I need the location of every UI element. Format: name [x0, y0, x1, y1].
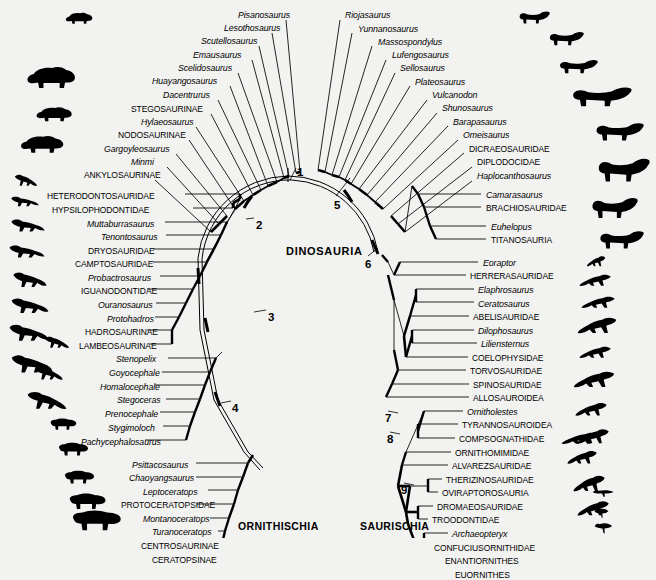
- tip-label: Homalocephale: [100, 382, 160, 392]
- tip-label: Stenopelix: [116, 354, 156, 364]
- silhouette-sauropod-medium: [570, 82, 632, 110]
- tip-label: HYPSILOPHODONTIDAE: [52, 205, 149, 215]
- silhouette-pachycephalosaur-big: [26, 388, 68, 412]
- silhouette-muttaburrasaur: [10, 216, 46, 234]
- clade-label-ornithischia: ORNITHISCHIA: [238, 520, 319, 532]
- tip-label: Turanoceratops: [152, 527, 212, 537]
- silhouette-camptosaur: [10, 294, 50, 316]
- silhouette-prosauropod: [548, 28, 584, 48]
- tip-label: ANKYLOSAURINAE: [84, 170, 161, 180]
- tip-label: SPINOSAURIDAE: [473, 380, 542, 390]
- tip-label: STEGOSAURINAE: [131, 104, 203, 114]
- tip-label: Huayangosaurus: [152, 76, 217, 86]
- tip-label: NODOSAURINAE: [118, 130, 186, 140]
- silhouette-pachycephalosaur-small: [44, 334, 70, 350]
- tip-label: PROTOCERATOPSIDAE: [121, 500, 215, 510]
- silhouette-ankylosaur: [18, 132, 66, 156]
- node-number-6: 6: [365, 258, 371, 270]
- silhouette-pachycephalosaur: [34, 364, 64, 382]
- tip-label: HERRERASAURIDAE: [470, 271, 554, 281]
- tip-label: Dacentrurus: [163, 90, 210, 100]
- tip-label: TYRANNOSAUROIDEA: [462, 420, 552, 430]
- tip-label: ORNITHOMIMIDAE: [455, 448, 529, 458]
- tip-label: Archaeopteryx: [452, 529, 507, 539]
- silhouette-heterodontosaur: [14, 172, 38, 188]
- tip-label: Riojasaurus: [345, 10, 390, 20]
- tip-label: Elaphrosaurus: [478, 285, 533, 295]
- tip-label: Sellosaurus: [400, 63, 445, 73]
- tip-label: Vulcanodon: [432, 90, 477, 100]
- tip-label: Ouranosaurus: [98, 300, 153, 310]
- silhouette-sauropod-large: [596, 152, 650, 186]
- silhouette-eoraptor: [586, 254, 606, 268]
- tip-label: OVIRAPTOROSAURIA: [442, 488, 529, 498]
- tip-label: Plateosaurus: [415, 77, 465, 87]
- tip-label: TROODONTIDAE: [432, 515, 499, 525]
- silhouette-hypsilophodont: [10, 194, 40, 208]
- silhouette-prosauropod-small: [518, 8, 550, 26]
- tip-label: CENTROSAURINAE: [141, 541, 219, 551]
- clade-label-saurischia: SAURISCHIA: [360, 520, 429, 532]
- silhouette-stegosaur-large: [24, 62, 78, 92]
- silhouette-sauropod-small: [558, 56, 598, 76]
- tip-label: Barapasaurus: [453, 117, 507, 127]
- tip-label: DIPLODOCIDAE: [477, 157, 540, 167]
- tip-label: CAMPTOSAURIDAE: [75, 259, 153, 269]
- silhouette-elaphrosaur: [580, 294, 616, 310]
- silhouette-ceratopsian-large: [68, 506, 124, 534]
- tip-label: Liliensternus: [481, 339, 529, 349]
- root-clade-label: DINOSAURIA: [286, 245, 363, 257]
- node-number-3: 3: [268, 311, 274, 323]
- tip-label: Omeisaurus: [463, 130, 509, 140]
- tip-label: TITANOSAURIA: [491, 235, 552, 245]
- node-number-2: 2: [256, 219, 262, 231]
- tip-label: HETERODONTOSAURIDAE: [47, 191, 155, 201]
- tip-label: ALVAREZSAURIDAE: [452, 461, 531, 471]
- tip-label: Scutellosaurus: [201, 36, 257, 46]
- silhouette-montanoceratops: [62, 468, 96, 486]
- tip-label: DROMAEOSAURIDAE: [437, 502, 523, 512]
- silhouette-tenontosaur: [8, 242, 46, 260]
- tip-label: EUORNITHES: [455, 570, 510, 580]
- tip-label: DICRAEOSAURIDAE: [469, 144, 550, 154]
- tip-label: Minmi: [131, 157, 154, 167]
- tip-label: ENANTIORNITHES: [445, 556, 519, 566]
- tip-label: Protohadros: [107, 314, 154, 324]
- node-number-8: 8: [387, 433, 393, 445]
- tip-label: DRYOSAURIDAE: [88, 246, 155, 256]
- tip-label: ALLOSAUROIDEA: [473, 393, 544, 403]
- tip-label: Scelidosaurus: [178, 63, 232, 73]
- tip-label: THERIZINOSAURIDAE: [446, 475, 534, 485]
- tip-label: LAMBEOSAURINAE: [79, 341, 156, 351]
- node-number-5: 5: [334, 199, 340, 211]
- tip-label: COMPSOGNATHIDAE: [459, 434, 544, 444]
- tip-label: Stegoceras: [117, 395, 161, 405]
- tip-label: Camarasaurus: [486, 190, 543, 200]
- tip-label: Massospondylus: [378, 37, 442, 47]
- tip-label: BRACHIOSAURIDAE: [486, 203, 567, 213]
- silhouette-dryosaur: [12, 268, 48, 290]
- silhouette-nodosaur: [34, 104, 74, 124]
- silhouette-enantiornithes: [594, 520, 614, 538]
- tip-label: Gargoyleosaurus: [104, 144, 170, 154]
- silhouette-dilophosaur: [578, 344, 612, 360]
- silhouette-sauropod-diplodocid: [594, 118, 644, 144]
- node-number-7: 7: [385, 412, 391, 424]
- tip-label: Muttaburrasaurus: [87, 219, 154, 229]
- tip-label: TORVOSAURIDAE: [470, 366, 542, 376]
- tip-label: Goyocephale: [109, 368, 160, 378]
- tip-label: Euhelopus: [491, 222, 532, 232]
- tip-label: IGUANODONTIDAE: [81, 286, 157, 296]
- silhouette-stegosaur-small: [64, 10, 94, 26]
- silhouette-allosaur: [574, 400, 608, 418]
- node-number-1: 1: [297, 166, 303, 178]
- silhouette-ceratosaur: [576, 314, 618, 336]
- tip-label: Haplocanthosaurus: [477, 171, 551, 181]
- tip-label: Probactrosaurus: [88, 273, 151, 283]
- tip-label: Hylaeosaurus: [141, 117, 194, 127]
- tip-label: Pisanosaurus: [238, 10, 290, 20]
- tip-label: Lesothosaurus: [224, 23, 280, 33]
- tip-label: Stygimoloch: [108, 423, 155, 433]
